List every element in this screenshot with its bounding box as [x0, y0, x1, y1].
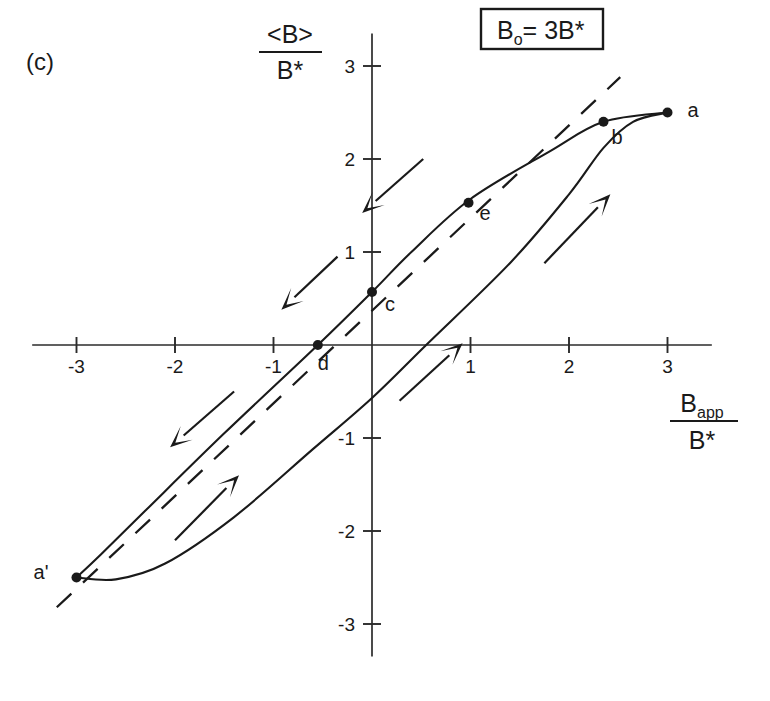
y-axis-title-group: <B> B*	[259, 20, 322, 84]
arrow-shaft-upper-left-of-center	[294, 257, 337, 298]
direction-arrows-group	[170, 159, 610, 540]
x-tick-label-3: 3	[662, 356, 673, 377]
y-tick-label-2: 2	[344, 149, 355, 170]
x-tick-label-2: 2	[564, 356, 575, 377]
point-label-d: d	[318, 352, 329, 374]
condition-box-text: Bo= 3B*	[497, 16, 585, 48]
y-tick-label--1: -1	[338, 428, 355, 449]
x-axis-ticks: -3-2-1123	[68, 337, 673, 377]
panel-label-group: (c)	[26, 48, 54, 75]
condition-box-group: Bo= 3B*	[481, 9, 603, 49]
labeled-points-group: abecda'	[34, 99, 700, 583]
data-point-d	[313, 340, 323, 350]
data-point-a	[663, 108, 673, 118]
data-point-e	[464, 198, 474, 208]
x-tick-label--3: -3	[68, 356, 85, 377]
curves-group	[57, 77, 668, 607]
data-point-c	[367, 287, 377, 297]
point-label-b: b	[611, 126, 622, 148]
x-axis-title-numerator: Bapp	[680, 389, 723, 421]
arrow-shaft-upper-far-left	[184, 392, 234, 436]
panel-label: (c)	[26, 48, 54, 75]
arrow-shaft-upper-mid-left	[376, 159, 424, 201]
point-label-e: e	[480, 202, 491, 224]
y-tick-label-3: 3	[344, 56, 355, 77]
point-label-c: c	[385, 293, 395, 315]
x-tick-label--1: -1	[265, 356, 282, 377]
point-label-a: a	[688, 99, 700, 121]
y-axis-title-denominator: B*	[277, 56, 304, 84]
y-axis-title-numerator: <B>	[267, 20, 313, 48]
hysteresis-loop-figure: -3-2-1123 -3-2-1123 abecda' (c) <B> B* B…	[0, 0, 770, 701]
data-point-b	[598, 117, 608, 127]
x-tick-label--2: -2	[167, 356, 184, 377]
arrow-shaft-lower-far-left	[175, 488, 226, 540]
y-tick-label--2: -2	[338, 521, 355, 542]
x-tick-label-1: 1	[465, 356, 476, 377]
arrow-shaft-lower-near-origin	[400, 355, 450, 401]
point-label-a-prime: a'	[34, 561, 49, 583]
data-point-a-prime	[72, 573, 82, 583]
axes-group: -3-2-1123 -3-2-1123	[32, 33, 712, 656]
x-axis-title-group: Bapp B*	[670, 389, 738, 454]
y-tick-label-1: 1	[344, 242, 355, 263]
y-tick-label--3: -3	[338, 614, 355, 635]
x-axis-title-denominator: B*	[689, 426, 716, 454]
